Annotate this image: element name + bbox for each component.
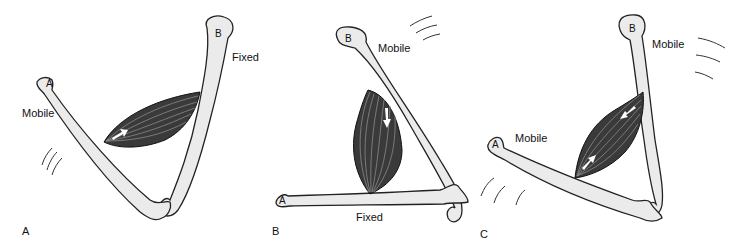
panel-c-label: C: [480, 228, 488, 240]
panel-c-bone-a-label: A: [492, 139, 499, 150]
panel-c-bone-a: [488, 137, 662, 221]
panel-c-bone-a-state: Mobile: [515, 132, 547, 144]
muscle-action-diagram: A B Mobile Fixed A B A Mobile Fixed B: [0, 0, 747, 245]
panel-a-bone-a-label: A: [46, 78, 53, 89]
panel-b-bone-b-label: B: [345, 33, 352, 44]
panel-a-motion-lines: [42, 148, 62, 175]
panel-b-muscle: [354, 90, 402, 194]
panel-a-bone-b-label: B: [215, 28, 222, 39]
panel-b-bone-a-label: A: [279, 195, 286, 206]
panel-a-bone-b-state: Fixed: [232, 51, 259, 63]
panel-b-bone-b-state: Mobile: [378, 42, 410, 54]
panel-b: B A Mobile Fixed B: [272, 16, 468, 237]
panel-b-bone-a-state: Fixed: [356, 211, 383, 223]
panel-c: A B Mobile Mobile C: [480, 15, 725, 240]
panel-a-label: A: [22, 225, 30, 237]
panel-b-label: B: [272, 225, 279, 237]
panel-a: A B Mobile Fixed A: [22, 16, 259, 237]
panel-a-bone-a: [37, 78, 171, 220]
panel-b-motion-lines: [410, 16, 440, 40]
panel-c-bone-b-label: B: [629, 23, 636, 34]
panel-a-bone-a-state: Mobile: [22, 107, 54, 119]
panel-c-bone-b-state: Mobile: [652, 38, 684, 50]
